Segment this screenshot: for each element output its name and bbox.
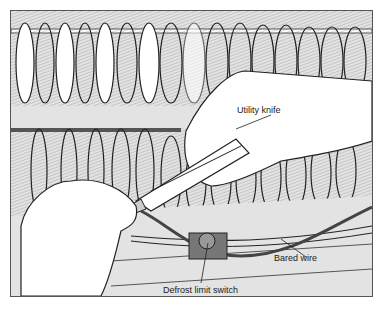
illustration-drawing <box>11 11 372 296</box>
utility-knife-label: Utility knife <box>237 105 281 115</box>
illustration-frame: Utility knife Bared wire Defrost limit s… <box>10 10 373 297</box>
defrost-limit-switch-drawing <box>189 233 227 259</box>
bared-wire-label: Bared wire <box>274 253 317 263</box>
defrost-limit-switch-label: Defrost limit switch <box>163 285 238 295</box>
